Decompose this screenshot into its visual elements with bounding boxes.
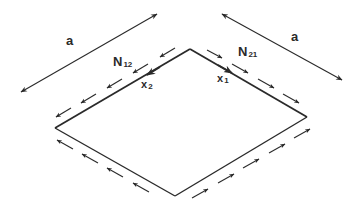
plate-outline bbox=[55, 49, 307, 196]
n21-sub: 21 bbox=[248, 50, 257, 59]
x2-axis-arrow bbox=[147, 67, 160, 75]
n12-sub: 12 bbox=[123, 60, 132, 69]
rhombus-plate-diagram bbox=[0, 0, 357, 205]
shear-arrows-bottom-right bbox=[192, 129, 310, 198]
shear-label-n21: N21 bbox=[238, 45, 257, 58]
x1-sub: 1 bbox=[224, 76, 228, 85]
axis-label-x2: x2 bbox=[141, 79, 153, 90]
axis-label-x1: x1 bbox=[217, 73, 229, 84]
dimension-label-left: a bbox=[66, 34, 73, 47]
shear-arrows-bottom-left bbox=[57, 140, 149, 192]
n12-main: N bbox=[113, 54, 122, 69]
diagram-canvas: a a N12 N21 x2 x1 bbox=[0, 0, 357, 205]
x2-sub: 2 bbox=[148, 82, 152, 91]
x2-main: x bbox=[141, 78, 147, 90]
dimension-label-right: a bbox=[291, 30, 298, 43]
x1-main: x bbox=[217, 72, 223, 84]
n21-main: N bbox=[238, 44, 247, 59]
shear-label-n12: N12 bbox=[113, 55, 132, 68]
